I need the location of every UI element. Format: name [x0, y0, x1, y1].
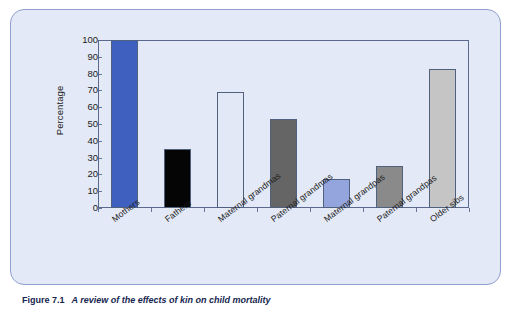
figure-caption-label: Figure 7.1	[22, 295, 65, 305]
y-axis-tick-label: 60	[72, 102, 98, 112]
figure-caption: Figure 7.1A review of the effects of kin…	[22, 295, 271, 305]
figure-panel: 0102030405060708090100 Percentage Mother…	[10, 9, 501, 285]
bar	[217, 92, 245, 208]
y-axis-tick-label: 50	[72, 119, 98, 129]
y-axis-tick-label: 80	[72, 69, 98, 79]
y-axis-tick-label: 70	[72, 86, 98, 96]
x-axis-tick-mark	[469, 208, 470, 212]
y-axis-tick-label: 10	[72, 186, 98, 196]
y-axis-title: Percentage	[54, 51, 65, 171]
x-axis-tick-labels: MothersFathersMaternal grandmasPaternal …	[98, 210, 469, 288]
bars-layer	[98, 40, 469, 208]
y-axis-tick-label: 100	[72, 35, 98, 45]
y-axis-tick-label: 0	[72, 203, 98, 213]
bar	[270, 119, 298, 208]
y-axis-tick-label: 40	[72, 136, 98, 146]
figure-caption-text: A review of the effects of kin on child …	[72, 295, 271, 305]
y-axis-tick-labels: 0102030405060708090100	[66, 40, 98, 208]
bar	[111, 40, 139, 208]
y-axis-tick-label: 20	[72, 170, 98, 180]
bar	[429, 69, 457, 208]
y-axis-tick-label: 90	[72, 52, 98, 62]
y-axis-tick-label: 30	[72, 153, 98, 163]
